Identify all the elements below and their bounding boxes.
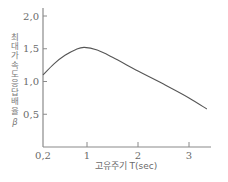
y-tick-label: 1,0 <box>23 76 39 87</box>
y-axis-title-char: 율 <box>11 106 19 116</box>
y-tick-label: 2,0 <box>23 11 39 22</box>
x-tick-label: 3 <box>186 150 192 161</box>
axes <box>43 8 211 147</box>
x-axis-title: 고유주기 T(sec) <box>95 161 158 171</box>
y-axis-title: 최대가속도응답배율β <box>11 32 19 127</box>
y-tick-label: 0,5 <box>23 109 39 120</box>
chart: 0,51,01,52,0 0,2123 최대가속도응답배율β 고유주기 T(se… <box>0 0 228 182</box>
x-ticks: 0,2123 <box>35 142 192 161</box>
x-tick-label: 0,2 <box>35 150 51 161</box>
response-curve <box>43 47 207 109</box>
y-axis-title-char: β <box>11 117 18 127</box>
x-tick-label: 1 <box>84 150 90 161</box>
y-tick-label: 1,5 <box>23 43 39 54</box>
x-tick-label: 2 <box>135 150 141 161</box>
